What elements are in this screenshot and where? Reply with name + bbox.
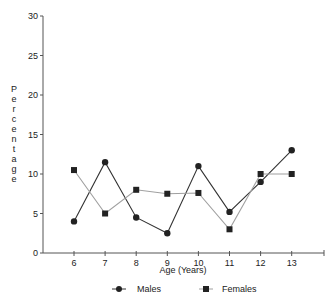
circle-marker-icon <box>226 209 232 215</box>
y-axis-title-letter: c <box>12 114 17 124</box>
y-axis-title: Percentage <box>11 84 17 184</box>
circle-marker-icon <box>257 179 263 185</box>
y-axis-title-letter: t <box>13 144 16 154</box>
circle-marker-icon <box>195 163 201 169</box>
legend: Males Females <box>112 284 257 294</box>
circle-marker-icon <box>133 214 139 220</box>
y-axis-title-letter: n <box>11 134 16 144</box>
square-marker-icon <box>195 190 201 196</box>
legend-label-males: Males <box>137 284 162 294</box>
square-marker-icon <box>102 211 108 217</box>
y-tick-label: 10 <box>28 169 38 179</box>
circle-marker-icon <box>102 159 108 165</box>
y-axis-title-letter: e <box>11 94 16 104</box>
y-tick-label: 25 <box>28 51 38 61</box>
y-tick-label: 30 <box>28 11 38 21</box>
circle-marker-icon <box>71 218 77 224</box>
y-axis-title-letter: r <box>13 104 16 114</box>
circle-marker-icon <box>164 230 170 236</box>
x-tick-label: 12 <box>256 258 266 268</box>
x-tick-label: 7 <box>103 258 108 268</box>
data-series <box>71 147 295 236</box>
series-males <box>71 147 295 236</box>
x-tick-label: 11 <box>225 258 234 268</box>
square-marker-icon <box>227 226 233 232</box>
square-marker-icon <box>258 171 264 177</box>
square-marker-icon <box>289 171 295 177</box>
square-marker-icon <box>203 286 209 292</box>
x-tick-label: 6 <box>71 258 76 268</box>
y-axis-title-letter: e <box>11 124 16 134</box>
y-axis-title-letter: P <box>11 84 17 94</box>
x-tick-label: 8 <box>134 258 139 268</box>
legend-item-males: Males <box>112 284 162 294</box>
y-tick-label: 20 <box>28 90 38 100</box>
x-axis-title: Age (Years) <box>159 265 206 275</box>
line-chart: Percentage 051015202530 678910111213 Age… <box>0 0 335 306</box>
y-axis: 051015202530 <box>28 11 43 258</box>
legend-label-females: Females <box>222 284 257 294</box>
x-tick-label: 13 <box>287 258 297 268</box>
y-axis-title-letter: g <box>11 164 16 174</box>
y-axis-title-letter: e <box>11 174 16 184</box>
square-marker-icon <box>164 191 170 197</box>
y-tick-label: 15 <box>28 130 38 140</box>
square-marker-icon <box>71 167 77 173</box>
square-marker-icon <box>133 187 139 193</box>
circle-marker-icon <box>289 147 295 153</box>
y-axis-title-letter: a <box>11 154 16 164</box>
legend-item-females: Females <box>199 284 257 294</box>
y-tick-label: 5 <box>33 209 38 219</box>
circle-marker-icon <box>116 286 122 292</box>
y-tick-label: 0 <box>33 248 38 258</box>
